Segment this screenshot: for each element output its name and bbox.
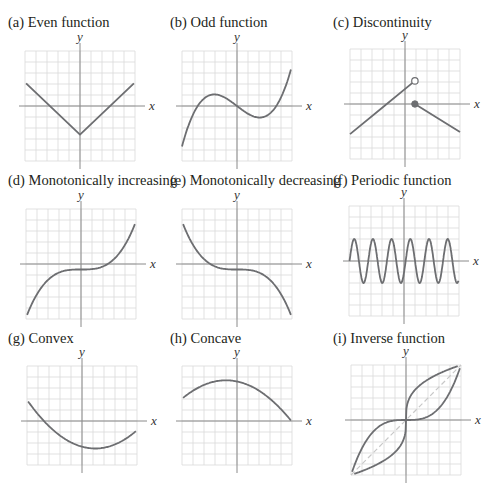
y-axis-label: y: [75, 29, 83, 44]
monotonically-decreasing-graph: xy: [170, 172, 330, 332]
y-axis-label: y: [77, 344, 85, 359]
periodic-function-graph: xy: [333, 172, 488, 332]
monotonically-increasing-graph: xy: [8, 172, 168, 332]
convex-graph: xy: [8, 330, 168, 487]
odd-function-graph: xy: [170, 14, 330, 174]
clipped-header-text: [30, 0, 330, 4]
x-axis-label: x: [148, 98, 155, 113]
panel-monotonically-decreasing: (e) Monotonically decreasing xy: [170, 172, 330, 330]
x-axis-label: x: [305, 256, 312, 271]
y-axis-label: y: [76, 187, 84, 202]
panel-discontinuity: (c) Discontinuity xy: [333, 14, 488, 172]
function-curve: [415, 104, 460, 132]
y-axis-label: y: [232, 29, 240, 44]
even-function-graph: xy: [8, 14, 168, 174]
panel-monotonically-increasing: (d) Monotonically increasing xy: [8, 172, 168, 330]
function-curve: [182, 70, 291, 147]
inverse-function-graph: xy: [333, 330, 488, 487]
x-axis-label: x: [150, 413, 157, 428]
y-axis-label: y: [400, 27, 408, 42]
x-axis-label: x: [474, 412, 481, 427]
panel-periodic-function: (f) Periodic function xy: [333, 172, 488, 330]
panel-concave: (h) Concave xy: [170, 330, 330, 487]
x-axis-label: x: [472, 253, 479, 268]
y-axis-label: y: [232, 187, 240, 202]
open-circle-marker: [412, 78, 418, 84]
x-axis-label: x: [305, 98, 312, 113]
x-axis-label: x: [305, 413, 312, 428]
filled-circle-marker: [412, 101, 418, 107]
panel-convex: (g) Convex xy: [8, 330, 168, 487]
panel-inverse-function: (i) Inverse function xy: [333, 330, 488, 487]
discontinuity-graph: xy: [333, 14, 488, 174]
y-axis-label: y: [399, 184, 407, 199]
x-axis-label: x: [149, 256, 156, 271]
x-axis-label: x: [473, 96, 480, 111]
y-axis-label: y: [401, 343, 409, 358]
concave-graph: xy: [170, 330, 330, 487]
panel-even-function: (a) Even function xy: [8, 14, 168, 172]
panel-odd-function: (b) Odd function xy: [170, 14, 330, 172]
y-axis-label: y: [232, 344, 240, 359]
